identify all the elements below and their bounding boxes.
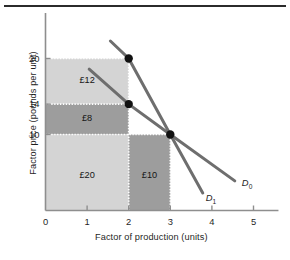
y-tick-label-10: 10 (18, 129, 40, 140)
x-axis-label: Factor of production (units) (95, 232, 208, 242)
curve-label-D0-subscript: 0 (249, 183, 253, 190)
curve-label-D0: D0 (242, 177, 252, 190)
x-tick-label-1: 1 (79, 216, 95, 227)
point-3-10 (166, 130, 174, 138)
x-tick-label-2: 2 (121, 216, 137, 227)
x-tick-label-0: 0 (38, 216, 54, 227)
regions-group (46, 59, 171, 211)
figure-container: Factor price (pounds per unit) Factor of… (0, 0, 290, 260)
curve-label-D0-text: D (242, 177, 249, 188)
y-tick-label-14: 14 (18, 98, 40, 109)
y-tick-label-20: 20 (18, 53, 40, 64)
region-8-label: £8 (67, 113, 107, 123)
point-2-20 (125, 54, 133, 62)
x-tick-label-5: 5 (246, 216, 262, 227)
curve-label-D1-subscript: 1 (212, 198, 216, 205)
region-12-label: £12 (67, 75, 107, 85)
x-tick-label-4: 4 (204, 216, 220, 227)
x-tick-label-3: 3 (162, 216, 178, 227)
point-2-14 (125, 100, 133, 108)
region-10-label: £10 (130, 170, 170, 180)
curve-label-D1: D1 (206, 192, 216, 205)
region-20-label: £20 (67, 170, 107, 180)
